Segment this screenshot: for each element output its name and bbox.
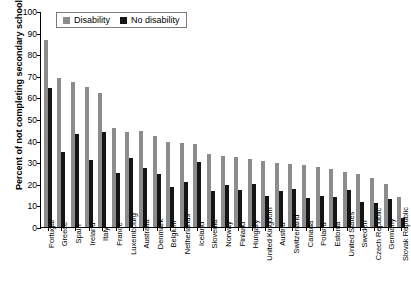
y-axis-tick-label: 90 — [19, 34, 37, 35]
x-axis-label: Portugal — [40, 232, 54, 306]
legend-label-no-disability: No disability — [131, 15, 180, 25]
bar-group — [245, 12, 259, 227]
x-axis-label: Slovak Republic — [394, 232, 408, 306]
bar-group — [394, 12, 408, 227]
legend-swatch-icon-no-disability — [120, 17, 127, 24]
x-axis-label: Finland — [231, 232, 245, 306]
x-axis-label: Ireland — [81, 232, 95, 306]
bar-no-disability — [89, 160, 93, 227]
y-axis-tick-label: 70 — [19, 77, 37, 78]
bar-group — [326, 12, 340, 227]
x-axis-label: Estonia — [326, 232, 340, 306]
bar-group — [163, 12, 177, 227]
x-axis-label: Sweden — [353, 232, 367, 306]
x-axis-label-text: Slovak Republic — [401, 207, 410, 261]
x-axis-label: France — [108, 232, 122, 306]
bar-group — [150, 12, 164, 227]
bar-group — [299, 12, 313, 227]
y-axis-tick-label: 80 — [19, 55, 37, 56]
y-axis-tick-label: 10 — [19, 206, 37, 207]
x-axis-label: Switzerland — [285, 232, 299, 306]
y-axis-tick-label: 50 — [19, 120, 37, 121]
bar-group — [55, 12, 69, 227]
chart-figure: Percent of not completing secondary scho… — [0, 0, 411, 306]
x-axis-label: Denmark — [149, 232, 163, 306]
bar-group — [123, 12, 137, 227]
chart-legend: Disability No disability — [56, 12, 187, 28]
bar-group — [286, 12, 300, 227]
bar-no-disability — [75, 134, 79, 227]
bar-group — [367, 12, 381, 227]
bar-group — [95, 12, 109, 227]
x-axis-label: Hungary — [244, 232, 258, 306]
y-axis-tick-label: 20 — [19, 185, 37, 186]
y-axis-title: Percent of not completing secondary scho… — [12, 0, 26, 200]
bar-no-disability — [197, 162, 201, 227]
bar-no-disability — [143, 168, 147, 227]
bar-group — [218, 12, 232, 227]
bar-series-container — [41, 12, 408, 227]
bar-group — [272, 12, 286, 227]
bar-group — [313, 12, 327, 227]
y-axis-tick-label: 0 — [19, 228, 37, 229]
x-axis-label: United Kingdom — [258, 232, 272, 306]
x-axis-label: United States — [340, 232, 354, 306]
bar-group — [340, 12, 354, 227]
bar-group — [136, 12, 150, 227]
y-axis-tick-mark — [37, 228, 41, 229]
y-axis-tick-label: 100 — [19, 12, 37, 13]
bar-group — [41, 12, 55, 227]
bar-group — [68, 12, 82, 227]
y-axis-tick-label: 60 — [19, 98, 37, 99]
legend-swatch-icon-disability — [63, 17, 70, 24]
bar-group — [231, 12, 245, 227]
x-axis-label: Netherlands — [176, 232, 190, 306]
bar-group — [191, 12, 205, 227]
bar-no-disability — [48, 88, 52, 227]
x-axis-label: Germany — [381, 232, 395, 306]
y-axis-tick-label: 30 — [19, 163, 37, 164]
x-axis-label: Italy — [95, 232, 109, 306]
bar-group — [204, 12, 218, 227]
legend-item-disability: Disability — [63, 15, 110, 25]
bar-group — [177, 12, 191, 227]
bar-group — [82, 12, 96, 227]
y-axis-tick-label: 40 — [19, 142, 37, 143]
x-axis-label: Canada — [299, 232, 313, 306]
x-axis-label: Greece — [54, 232, 68, 306]
legend-label-disability: Disability — [74, 15, 110, 25]
plot-area: 0102030405060708090100 — [40, 12, 408, 228]
x-axis-label: Iceland — [190, 232, 204, 306]
x-axis-label: Slovenia — [204, 232, 218, 306]
bar-group — [259, 12, 273, 227]
x-axis-labels: PortugalGreeceSpainIrelandItalyFranceLux… — [40, 232, 408, 306]
bar-group — [381, 12, 395, 227]
bar-group — [109, 12, 123, 227]
x-axis-label: Luxembourg — [122, 232, 136, 306]
x-axis-label: Czech Republic — [367, 232, 381, 306]
x-axis-label: Norway — [217, 232, 231, 306]
x-axis-label: Belgium — [163, 232, 177, 306]
bar-no-disability — [102, 132, 106, 227]
legend-item-no-disability: No disability — [120, 15, 180, 25]
x-axis-label: Australia — [135, 232, 149, 306]
x-axis-label: Spain — [67, 232, 81, 306]
x-axis-label: Poland — [313, 232, 327, 306]
bar-no-disability — [61, 152, 65, 227]
x-axis-label: Austria — [272, 232, 286, 306]
bar-group — [354, 12, 368, 227]
bar-no-disability — [116, 173, 120, 227]
